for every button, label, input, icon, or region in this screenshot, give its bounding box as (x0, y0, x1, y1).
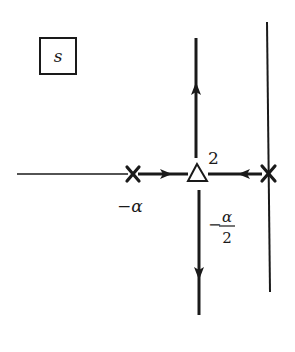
svg-text:−: − (208, 215, 221, 234)
s-plane-label: s (54, 46, 63, 66)
s-plane-label-box: s (40, 38, 76, 74)
breakaway-triangle-icon (188, 164, 207, 181)
root-locus-diagram: s 2 −α − α 2 (0, 0, 295, 352)
svg-text:α: α (222, 208, 232, 226)
imaginary-axis (267, 22, 270, 292)
breakaway-value-label: − α 2 (208, 208, 235, 247)
svg-text:2: 2 (222, 229, 232, 247)
pole-left-icon (127, 167, 139, 181)
multiplicity-label: 2 (208, 148, 219, 168)
pole-left-label: −α (117, 196, 143, 216)
